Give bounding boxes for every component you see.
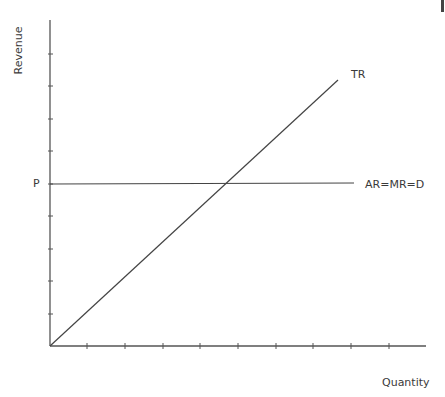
ar-mr-d-line <box>50 183 354 184</box>
ar-mr-d-series-label: AR=MR=D <box>365 178 424 191</box>
x-axis-label: Quantity <box>382 376 430 389</box>
y-axis-label: Revenue <box>12 25 25 77</box>
edge-bar <box>441 0 444 12</box>
price-tick-label: P <box>33 177 40 190</box>
chart-canvas <box>0 0 445 397</box>
tr-line <box>50 80 338 346</box>
tr-series-label: TR <box>351 68 365 81</box>
